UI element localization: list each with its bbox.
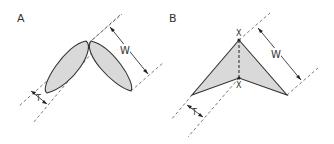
guide-line xyxy=(239,13,270,40)
arrow-head-icon xyxy=(143,69,148,74)
panel-b: B X X W T xyxy=(169,12,318,137)
width-label: W xyxy=(120,45,130,56)
arrow-head-icon xyxy=(296,75,301,80)
guide-line xyxy=(287,68,318,95)
bottom-point xyxy=(237,76,240,79)
thickness-label: T xyxy=(35,94,41,103)
panel-a: A W T xyxy=(17,12,164,123)
panel-b-label: B xyxy=(169,12,177,25)
bottom-point-label: X xyxy=(236,81,242,90)
left-lens-element xyxy=(45,41,88,93)
top-point-label: X xyxy=(236,29,242,38)
arrow-head-icon xyxy=(110,27,115,32)
width-label: W xyxy=(271,49,281,60)
guide-line xyxy=(171,95,192,120)
arrow-head-icon xyxy=(258,28,263,33)
diagram-canvas: A W T B X X xyxy=(0,0,334,144)
thickness-label: T xyxy=(191,108,197,117)
guide-line xyxy=(131,62,164,91)
panel-a-label: A xyxy=(17,12,25,25)
